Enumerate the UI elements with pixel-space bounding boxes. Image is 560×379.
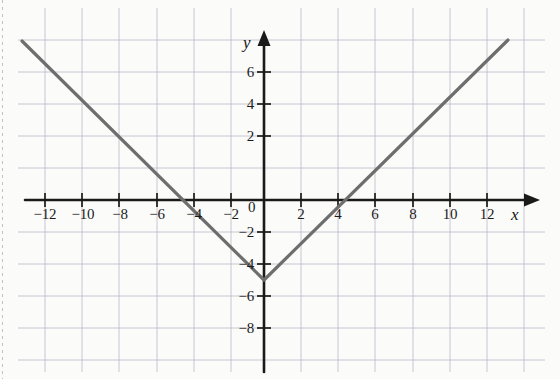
graph-figure: −12 −10 −8 −6 −4 −2 2 4 6 8 10 12 0 6 4 …: [0, 0, 560, 379]
x-tick-label: 10: [443, 206, 458, 223]
y-tick-label: −2: [228, 224, 254, 241]
origin-label: 0: [248, 199, 255, 216]
coordinate-plane: [0, 0, 560, 379]
x-tick-label: 8: [409, 206, 416, 223]
x-tick-label: −6: [149, 206, 165, 223]
x-tick-label: −4: [186, 206, 202, 223]
y-tick-label: 4: [236, 96, 254, 113]
x-tick-label: 6: [371, 206, 378, 223]
y-tick-label: −4: [228, 256, 254, 273]
x-tick-label: −10: [72, 206, 95, 223]
y-tick-label: −6: [228, 288, 254, 305]
x-tick-label: 12: [480, 206, 495, 223]
x-tick-label: −8: [112, 206, 128, 223]
x-tick-label: 2: [297, 206, 304, 223]
x-tick-label: −2: [223, 206, 239, 223]
y-tick-label: 2: [236, 128, 254, 145]
x-tick-label: −12: [34, 206, 57, 223]
y-tick-label: 6: [236, 64, 254, 81]
y-axis-label: y: [243, 33, 251, 53]
x-axis: [25, 194, 540, 207]
grid-vertical: [45, 8, 524, 372]
x-tick-label: 4: [334, 206, 341, 223]
x-axis-label: x: [511, 205, 519, 225]
y-tick-label: −8: [228, 320, 254, 337]
